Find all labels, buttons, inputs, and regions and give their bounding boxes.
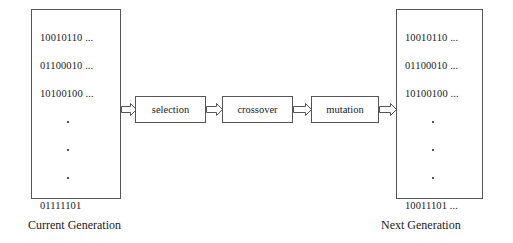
vertical-ellipsis-dot [405,172,482,183]
diagram-canvas: 10010110 ... 01100010 ... 10100100 ... 0… [0,0,513,243]
vertical-ellipsis-dot [40,172,120,183]
chromosome-row: 10100100 ... [40,88,120,99]
arrow-crossover-to-mutation [293,103,312,116]
current-generation-chromosome-list: 10010110 ... 01100010 ... 10100100 ... 0… [32,10,120,198]
operator-label: mutation [326,104,363,115]
operator-box-mutation[interactable]: mutation [311,96,379,123]
next-generation-chromosome-list: 10010110 ... 01100010 ... 10100100 ... 1… [397,10,482,198]
chromosome-row-last: 10011101 ... [405,200,482,211]
operator-box-selection[interactable]: selection [135,96,206,123]
chromosome-row-last: 01111101 [40,200,120,211]
vertical-ellipsis-dot [405,116,482,127]
vertical-ellipsis-dot [405,144,482,155]
arrow-mutation-to-next [379,103,397,116]
chromosome-row: 01100010 ... [405,60,482,71]
vertical-ellipsis-dot [40,116,120,127]
chromosome-row: 01100010 ... [40,60,120,71]
chromosome-row: 10100100 ... [405,88,482,99]
chromosome-row: 10010110 ... [40,32,120,43]
operator-label: crossover [237,104,277,115]
arrow-selection-to-crossover [206,103,223,116]
operator-label: selection [152,104,189,115]
caption-current-generation: Current Generation [28,218,121,232]
current-generation-box: 10010110 ... 01100010 ... 10100100 ... 0… [31,9,121,199]
vertical-ellipsis-dot [40,144,120,155]
operator-box-crossover[interactable]: crossover [222,96,293,123]
caption-next-generation: Next Generation [381,218,461,232]
chromosome-row: 10010110 ... [405,32,482,43]
next-generation-box: 10010110 ... 01100010 ... 10100100 ... 1… [396,9,483,199]
